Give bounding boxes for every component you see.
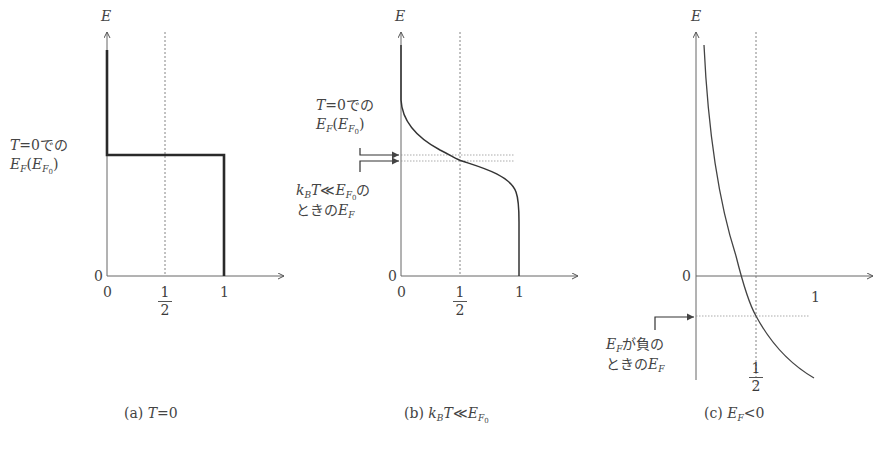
x-tick-half-a: 12: [158, 285, 172, 318]
ef-negative-annotation-c-line2: ときのEF: [606, 356, 664, 377]
ef-negative-annotation-c: EFが負の: [606, 336, 664, 357]
y-axis-label-b: E: [395, 8, 405, 24]
ef-annotation-b-line2: ときのEF: [296, 202, 354, 223]
x-tick-half-b: 12: [453, 285, 467, 318]
y-axis-label-c: E: [691, 8, 701, 24]
origin-y-label-a: 0: [94, 268, 103, 284]
caption-c: (c) EF<0: [704, 405, 764, 423]
step-function-curve: [107, 50, 224, 276]
origin-y-label-b: 0: [388, 268, 397, 284]
ef0-annotation-a-line2: EF(EF0): [10, 156, 58, 180]
x-tick-0-a: 0: [103, 284, 112, 300]
x-tick-1-c: 1: [811, 289, 820, 305]
ef-pointer-arrow: [360, 161, 399, 172]
x-tick-1-a: 1: [220, 284, 229, 300]
panel-a: [107, 32, 284, 276]
panel-c: [655, 32, 873, 385]
y-axis-label-a: E: [101, 8, 111, 24]
ef0-pointer-arrow: [360, 148, 399, 155]
origin-y-label-c: 0: [682, 268, 691, 284]
x-tick-1-b: 1: [515, 284, 524, 300]
x-tick-half-c: 12: [749, 361, 763, 394]
ef0-annotation-a: T=0での: [10, 137, 68, 153]
diagram-canvas: [0, 0, 879, 454]
distribution-curve: [704, 45, 814, 378]
x-tick-0-b: 0: [397, 284, 406, 300]
caption-b: (b) kBT≪EF0: [404, 405, 489, 425]
ef0-annotation-b: T=0での: [316, 97, 374, 113]
ef-pointer-arrow: [655, 317, 694, 330]
caption-a: (a) T=0: [124, 405, 178, 421]
ef0-annotation-b-line2: EF(EF0): [316, 116, 364, 140]
panel-b: [360, 32, 578, 276]
